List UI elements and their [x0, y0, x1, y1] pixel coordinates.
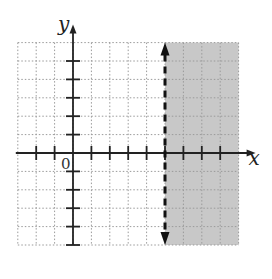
coordinate-plane: x y 0 [0, 0, 272, 279]
x-axis-label: x [249, 146, 260, 170]
y-axis-arrow-icon [70, 25, 77, 34]
origin-label: 0 [61, 155, 71, 173]
y-axis-label: y [57, 12, 70, 36]
